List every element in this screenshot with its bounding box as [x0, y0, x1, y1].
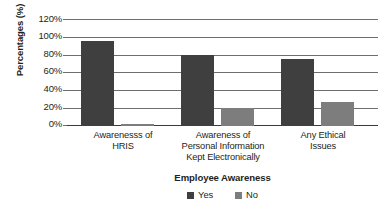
- y-axis-tick-labels: 120% 100% 80% 60% 40% 20% 0%: [22, 14, 62, 126]
- x-axis-category-labels: Awarenesss of HRIS Awareness of Personal…: [67, 130, 378, 170]
- legend-entry-yes: Yes: [187, 190, 213, 200]
- bar-group-awareness-of-hris: [77, 19, 169, 126]
- y-tick-label-40: 40%: [22, 84, 62, 94]
- bars-layer: [67, 19, 378, 126]
- category-label-line2: HRIS: [67, 141, 179, 152]
- category-label-any-ethical-issues: Any Ethical Issues: [267, 130, 379, 152]
- plot-area: [67, 19, 378, 126]
- bar-awareness-of-hris-yes: [81, 41, 114, 126]
- category-label-line2: Issues: [267, 141, 379, 152]
- bar-awareness-of-hris-no: [121, 124, 154, 126]
- category-label-line2: Personal Information: [167, 141, 279, 152]
- category-label-line3: Kept Electronically: [167, 152, 279, 163]
- y-tick-label-120: 120%: [22, 14, 62, 24]
- legend-label-yes: Yes: [198, 190, 213, 200]
- y-tick-label-20: 20%: [22, 102, 62, 112]
- legend-swatch-no-icon: [235, 192, 242, 199]
- bar-any-ethical-issues-yes: [281, 59, 314, 126]
- category-label-line1: Awarenesss of: [67, 130, 179, 141]
- bar-group-awareness-of-personal-information: [177, 19, 269, 126]
- bar-any-ethical-issues-no: [321, 102, 354, 126]
- legend-label-no: No: [246, 190, 258, 200]
- legend-entry-no: No: [235, 190, 258, 200]
- category-label-awareness-of-hris: Awarenesss of HRIS: [67, 130, 179, 152]
- y-tick-label-60: 60%: [22, 66, 62, 76]
- legend-swatch-yes-icon: [187, 192, 194, 199]
- category-label-awareness-of-personal-information: Awareness of Personal Information Kept E…: [167, 130, 279, 164]
- bar-chart-figure: Percentages (%) 120% 100% 80% 60% 40% 20…: [0, 0, 384, 213]
- bar-awareness-of-personal-information-no: [221, 108, 254, 126]
- bar-group-any-ethical-issues: [277, 19, 369, 126]
- bar-awareness-of-personal-information-yes: [181, 55, 214, 126]
- x-axis-title: Employee Awareness: [67, 172, 378, 183]
- chart-legend: Yes No: [67, 190, 378, 200]
- y-tick-label-0: 0%: [22, 119, 62, 129]
- category-label-line1: Awareness of: [167, 130, 279, 141]
- y-tick-label-80: 80%: [22, 49, 62, 59]
- y-tick-label-100: 100%: [22, 31, 62, 41]
- category-label-line1: Any Ethical: [267, 130, 379, 141]
